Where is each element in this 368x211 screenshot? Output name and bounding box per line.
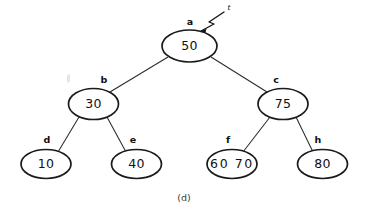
edge-c-h [296, 117, 313, 152]
edge-b-e [107, 117, 126, 152]
root-pointer-arrow-icon [201, 12, 224, 31]
node-e-value: 40 [128, 156, 145, 171]
node-c-value: 75 [275, 96, 292, 111]
bst-figure: t 50 a 30 b 75 c 10 d 40 [0, 0, 368, 211]
edge-b-d [58, 117, 79, 152]
node-h-label: h [315, 134, 322, 145]
figure-caption: (d) [177, 192, 190, 203]
node-h-value: 80 [314, 156, 331, 171]
node-d-label: d [44, 134, 51, 145]
node-f-value: 60 70 [210, 156, 254, 171]
node-b-value: 30 [85, 96, 102, 111]
node-e-label: e [130, 134, 136, 145]
tree-node-b[interactable]: 30 b [69, 74, 119, 120]
binary-search-tree-diagram: t 50 a 30 b 75 c 10 d 40 [0, 0, 368, 211]
root-pointer: t [200, 3, 231, 33]
tree-node-d[interactable]: 10 d [21, 134, 71, 179]
paper-smudge-artifact [67, 74, 70, 82]
node-f-label: f [226, 134, 231, 145]
node-c-label: c [273, 74, 279, 85]
tree-node-f[interactable]: 60 70 f [207, 134, 257, 179]
tree-node-e[interactable]: 40 e [112, 134, 162, 179]
root-pointer-label: t [227, 3, 231, 12]
edge-c-f [243, 117, 270, 152]
node-a-label: a [187, 16, 193, 27]
node-a-value: 50 [181, 38, 198, 53]
node-d-value: 10 [38, 156, 55, 171]
edge-a-c [211, 57, 267, 92]
node-b-label: b [101, 74, 108, 85]
tree-node-h[interactable]: 80 h [298, 134, 348, 179]
edge-a-b [110, 57, 168, 92]
tree-node-c[interactable]: 75 c [258, 74, 308, 120]
